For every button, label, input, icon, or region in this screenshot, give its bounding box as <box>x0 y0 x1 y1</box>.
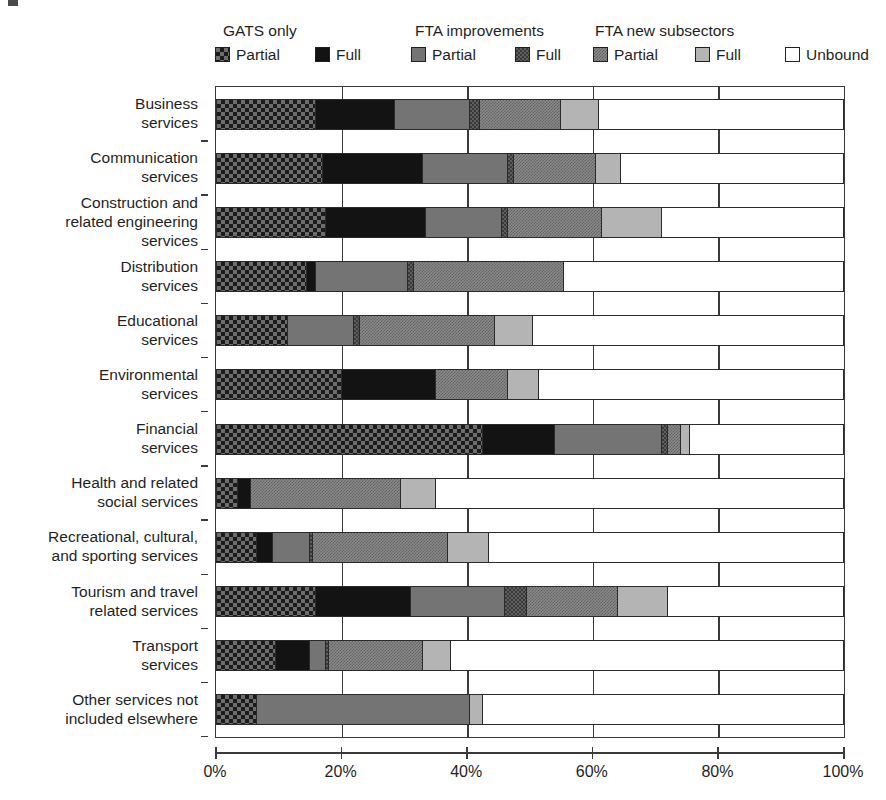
plot-area <box>215 86 845 738</box>
category-label: Distributionservices <box>0 257 198 295</box>
bar-segment-fta_improvements_partial <box>555 424 662 455</box>
bar-segment-fta_improvements_partial <box>395 99 470 130</box>
cropped-caption-strip <box>0 0 886 8</box>
legend-item-fta-new-subsectors-partial: Partial <box>593 46 658 63</box>
bar-segment-fta_new_full <box>561 99 599 130</box>
unbound-swatch-icon <box>785 47 800 62</box>
bar-segment-fta_improvements_partial <box>316 261 407 292</box>
fta-new-subsectors-partial-swatch-icon <box>593 47 608 62</box>
bar-segment-unbound <box>483 694 844 725</box>
bar-segment-gats_full <box>307 261 316 292</box>
x-axis-tick-0 <box>215 747 217 759</box>
bar-segment-fta_new_full <box>596 153 621 184</box>
bar-segment-unbound <box>690 424 844 455</box>
bar-row <box>216 315 844 346</box>
legend-item-gats-full: Full <box>315 46 361 63</box>
bar-rows <box>216 87 844 737</box>
legend-item-label: Partial <box>236 46 280 63</box>
bar-row <box>216 99 844 130</box>
bar-segment-gats_full <box>257 532 273 563</box>
bar-segment-gats_partial <box>216 694 257 725</box>
gats-partial-swatch-icon <box>215 47 230 62</box>
bar-segment-gats_partial <box>216 369 342 400</box>
category-label: Health and relatedsocial services <box>0 473 198 511</box>
category-axis-labels: BusinessservicesCommunicationservicesCon… <box>0 86 208 736</box>
bar-row <box>216 207 844 238</box>
legend-item-fta-improvements-full: Full <box>515 46 561 63</box>
bar-segment-gats_partial <box>216 640 276 671</box>
category-label: Other services notincluded elsewhere <box>0 690 198 728</box>
legend-item-fta-improvements-partial: Partial <box>411 46 476 63</box>
bar-row <box>216 424 844 455</box>
category-label: Educationalservices <box>0 311 198 349</box>
bar-segment-fta_new_partial <box>480 99 562 130</box>
bar-row <box>216 640 844 671</box>
legend-items: Partial Full Partial Full Partial Full U… <box>215 46 875 68</box>
bar-segment-unbound <box>533 315 844 346</box>
fta-improvements-full-swatch-icon <box>515 47 530 62</box>
x-axis-tick-20 <box>341 747 343 759</box>
bar-row <box>216 369 844 400</box>
bar-segment-fta_new_full <box>495 315 533 346</box>
bar-segment-fta_new_partial <box>313 532 448 563</box>
bar-segment-fta_improvements_partial <box>273 532 311 563</box>
bar-segment-unbound <box>539 369 844 400</box>
bar-segment-gats_partial <box>216 586 316 617</box>
category-axis-tick <box>201 574 208 575</box>
bar-segment-gats_partial <box>216 207 326 238</box>
x-axis-tick-labels: 0%20%40%60%80%100% <box>0 762 886 788</box>
bar-row <box>216 586 844 617</box>
category-label: Environmentalservices <box>0 365 198 403</box>
bar-segment-fta_improvements_partial <box>288 315 354 346</box>
bar-segment-fta_new_full <box>618 586 668 617</box>
x-axis-line <box>215 752 843 754</box>
category-axis-tick <box>201 519 208 520</box>
bar-segment-fta_new_partial <box>436 369 508 400</box>
legend-item-fta-new-subsectors-full: Full <box>695 46 741 63</box>
bar-row <box>216 478 844 509</box>
bar-segment-fta_new_full <box>602 207 662 238</box>
bar-segment-fta_new_full <box>470 694 483 725</box>
bar-segment-fta_new_partial <box>329 640 423 671</box>
bar-segment-gats_full <box>316 99 395 130</box>
bar-segment-fta_new_partial <box>668 424 681 455</box>
bar-segment-fta_new_full <box>401 478 436 509</box>
bar-segment-fta_new_full <box>423 640 451 671</box>
x-axis-tick-label: 40% <box>450 762 482 782</box>
bar-segment-fta_new_partial <box>414 261 565 292</box>
category-axis-tick <box>201 194 208 195</box>
legend-item-label: Unbound <box>806 46 869 63</box>
legend-group-title-fta-improvements: FTA improvements <box>415 22 544 40</box>
category-axis-tick <box>201 465 208 466</box>
bar-segment-gats_full <box>276 640 311 671</box>
bar-row <box>216 532 844 563</box>
bar-segment-gats_full <box>326 207 426 238</box>
fta-new-subsectors-full-swatch-icon <box>695 47 710 62</box>
bar-segment-unbound <box>599 99 844 130</box>
bar-segment-fta_new_partial <box>527 586 618 617</box>
bar-segment-fta_new_full <box>681 424 690 455</box>
bar-segment-gats_partial <box>216 261 307 292</box>
bar-segment-gats_partial <box>216 153 323 184</box>
bar-segment-fta_new_partial <box>508 207 602 238</box>
bar-segment-gats_full <box>323 153 423 184</box>
category-axis-tick <box>201 736 208 737</box>
category-label: Communicationservices <box>0 148 198 186</box>
category-label: Transportservices <box>0 636 198 674</box>
bar-row <box>216 694 844 725</box>
bar-segment-gats_partial <box>216 315 288 346</box>
category-axis-tick <box>201 303 208 304</box>
fta-improvements-partial-swatch-icon <box>411 47 426 62</box>
category-label: Construction andrelated engineeringservi… <box>0 193 198 250</box>
x-axis-tick-label: 0% <box>203 762 226 782</box>
category-label: Tourism and travelrelated services <box>0 582 198 620</box>
category-axis-tick <box>201 357 208 358</box>
x-axis-tick-80 <box>717 747 719 759</box>
bar-segment-unbound <box>436 478 844 509</box>
x-axis-tick-60 <box>592 747 594 759</box>
category-axis-tick <box>201 628 208 629</box>
category-axis-tick <box>201 411 208 412</box>
bar-segment-gats_partial <box>216 478 238 509</box>
bar-segment-unbound <box>668 586 844 617</box>
bar-row <box>216 261 844 292</box>
